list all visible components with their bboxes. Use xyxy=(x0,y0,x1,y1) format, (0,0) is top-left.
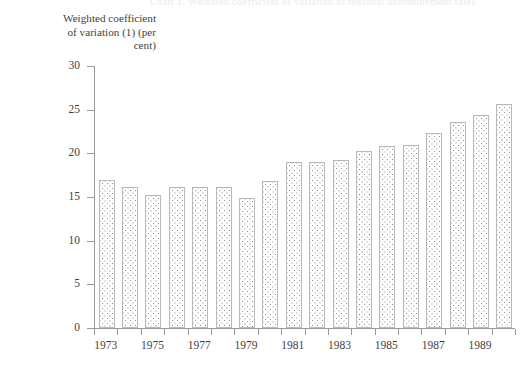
x-tick-1976 xyxy=(164,329,165,335)
y-axis-label-line-1: of variation (1) (per xyxy=(6,26,156,40)
x-tick-1978 xyxy=(211,329,212,335)
x-tick-1981 xyxy=(281,329,282,335)
bar-1986 xyxy=(403,145,419,328)
bar-1982 xyxy=(309,162,325,328)
x-tick-label-1985: 1985 xyxy=(363,340,409,352)
x-tick-label-1989: 1989 xyxy=(457,340,503,352)
x-tick-end xyxy=(515,329,516,335)
bar-1987 xyxy=(426,133,442,328)
x-tick-1986 xyxy=(398,329,399,335)
y-axis-label: Weighted coefficientof variation (1) (pe… xyxy=(6,12,156,53)
bar-1974 xyxy=(122,187,138,328)
bar-1980 xyxy=(262,181,278,328)
bar-1990 xyxy=(496,104,512,328)
bar-1977 xyxy=(192,187,208,328)
x-tick-label-1981: 1981 xyxy=(270,340,316,352)
x-tick-1988 xyxy=(445,329,446,335)
bar-1981 xyxy=(286,162,302,328)
bar-1984 xyxy=(356,151,372,328)
x-tick-label-1973: 1973 xyxy=(83,340,129,352)
y-tick-15 xyxy=(87,197,95,198)
x-tick-1985 xyxy=(375,329,376,335)
y-tick-label-25: 25 xyxy=(20,104,80,116)
x-tick-1987 xyxy=(421,329,422,335)
x-tick-1984 xyxy=(351,329,352,335)
y-axis-label-line-2: cent) xyxy=(6,39,156,53)
x-tick-1990 xyxy=(492,329,493,335)
x-tick-label-1987: 1987 xyxy=(410,340,456,352)
y-tick-10 xyxy=(87,241,95,242)
bar-1976 xyxy=(169,187,185,328)
x-tick-1982 xyxy=(305,329,306,335)
x-tick-1977 xyxy=(188,329,189,335)
y-axis-label-line-0: Weighted coefficient xyxy=(6,12,156,26)
x-tick-1979 xyxy=(234,329,235,335)
cropped-title-remnant: Chart 1. Weighted coefficient of variati… xyxy=(150,0,480,5)
bar-1983 xyxy=(333,160,349,328)
y-tick-5 xyxy=(87,284,95,285)
bar-1985 xyxy=(379,146,395,328)
y-tick-label-0: 0 xyxy=(20,322,80,334)
y-tick-label-5: 5 xyxy=(20,278,80,290)
bar-1978 xyxy=(216,187,232,328)
y-tick-label-20: 20 xyxy=(20,147,80,159)
x-tick-1973 xyxy=(94,329,95,335)
y-tick-30 xyxy=(87,66,95,67)
x-tick-1983 xyxy=(328,329,329,335)
x-tick-1980 xyxy=(258,329,259,335)
bar-1989 xyxy=(473,115,489,328)
x-tick-label-1979: 1979 xyxy=(223,340,269,352)
x-tick-1974 xyxy=(117,329,118,335)
y-tick-20 xyxy=(87,153,95,154)
x-tick-1975 xyxy=(141,329,142,335)
bar-1979 xyxy=(239,198,255,328)
bar-series xyxy=(95,66,515,328)
x-tick-label-1977: 1977 xyxy=(176,340,222,352)
plot-area xyxy=(95,66,515,328)
bar-1988 xyxy=(450,122,466,328)
x-tick-label-1975: 1975 xyxy=(129,340,175,352)
y-tick-label-10: 10 xyxy=(20,235,80,247)
bar-1975 xyxy=(145,195,161,328)
bar-1973 xyxy=(99,180,115,328)
y-tick-25 xyxy=(87,110,95,111)
y-tick-label-30: 30 xyxy=(20,60,80,72)
x-tick-label-1983: 1983 xyxy=(317,340,363,352)
x-tick-1989 xyxy=(468,329,469,335)
chart-page: Chart 1. Weighted coefficient of variati… xyxy=(0,0,526,375)
y-tick-label-15: 15 xyxy=(20,191,80,203)
